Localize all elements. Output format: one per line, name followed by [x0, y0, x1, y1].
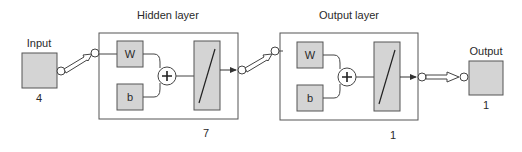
input-port-icon — [271, 47, 279, 55]
input-label: Input — [27, 37, 51, 49]
network-diagram: Input 4 Hidden layer W b 7 Outp — [0, 0, 522, 152]
output-layer-title: Output layer — [319, 9, 379, 21]
output-node: Output 1 — [469, 45, 503, 111]
hidden-bias-label: b — [127, 91, 133, 103]
hidden-layer-title: Hidden layer — [137, 9, 199, 21]
output-block — [469, 61, 503, 95]
input-port-icon — [460, 73, 468, 81]
output-weight-label: W — [305, 49, 316, 61]
hollow-arrow-icon — [245, 54, 272, 72]
output-layer-size: 1 — [390, 129, 396, 141]
hidden-weight-label: W — [125, 48, 136, 60]
hollow-arrow-icon — [64, 54, 92, 73]
hidden-layer-size: 7 — [203, 127, 209, 139]
output-label: Output — [469, 45, 502, 57]
output-layer: Output layer W b 1 — [279, 9, 418, 141]
output-port-icon — [57, 67, 65, 75]
hidden-to-output-connector — [238, 47, 279, 74]
input-size: 4 — [36, 92, 42, 104]
output-size: 1 — [483, 99, 489, 111]
input-to-hidden-connector — [57, 49, 99, 75]
input-block — [22, 53, 57, 88]
output-layer-to-output-connector — [418, 72, 468, 82]
input-port-icon — [91, 49, 99, 57]
input-node: Input 4 — [22, 37, 57, 104]
hidden-layer: Hidden layer W b 7 — [99, 9, 238, 139]
output-bias-label: b — [307, 92, 313, 104]
hollow-arrow-icon — [426, 72, 459, 82]
output-port-icon — [238, 66, 246, 74]
output-port-icon — [418, 73, 426, 81]
